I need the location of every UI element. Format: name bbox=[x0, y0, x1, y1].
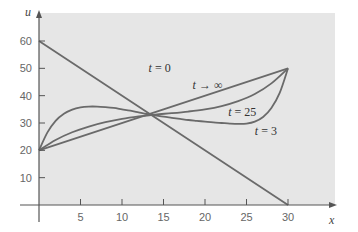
curve-label-1: t = 3 bbox=[255, 124, 277, 138]
y-tick-label: 40 bbox=[20, 90, 32, 102]
y-tick-label: 50 bbox=[20, 62, 32, 74]
y-tick-label: 30 bbox=[20, 117, 32, 129]
y-tick-label: 60 bbox=[20, 35, 32, 47]
x-tick-label: 20 bbox=[199, 211, 211, 223]
x-tick-label: 30 bbox=[282, 211, 294, 223]
x-tick-label: 5 bbox=[77, 211, 83, 223]
plot-panel bbox=[39, 13, 335, 205]
y-tick-label: 20 bbox=[20, 144, 32, 156]
x-tick-label: 10 bbox=[116, 211, 128, 223]
chart: xu 51015202530102030405060 t = 0t = 3t =… bbox=[0, 0, 358, 232]
curve-label-0: t = 0 bbox=[149, 61, 171, 75]
curve-label-2: t = 25 bbox=[228, 105, 256, 119]
x-tick-label: 15 bbox=[157, 211, 169, 223]
curve-label-3: t → ∞ bbox=[193, 78, 223, 92]
y-tick-label: 10 bbox=[20, 172, 32, 184]
x-tick-label: 25 bbox=[240, 211, 252, 223]
y-axis-label: u bbox=[25, 5, 31, 19]
x-axis-label: x bbox=[328, 213, 335, 227]
